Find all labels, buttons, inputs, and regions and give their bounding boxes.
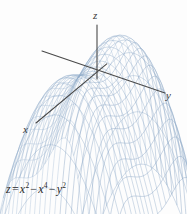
coordinate-axes xyxy=(36,25,165,123)
equation-minus-2: − xyxy=(48,182,57,196)
equation-equals: = xyxy=(11,182,20,196)
equation-minus-1: − xyxy=(29,182,38,196)
x-axis-label: x xyxy=(23,124,28,135)
equation-caption: z=x2−x4−y2 xyxy=(6,182,66,195)
y-axis-label: y xyxy=(166,90,171,101)
z-axis-label: z xyxy=(93,10,97,21)
equation-term3-exponent: 2 xyxy=(62,181,66,190)
surface-plot-figure: z y x z=x2−x4−y2 xyxy=(0,0,187,214)
